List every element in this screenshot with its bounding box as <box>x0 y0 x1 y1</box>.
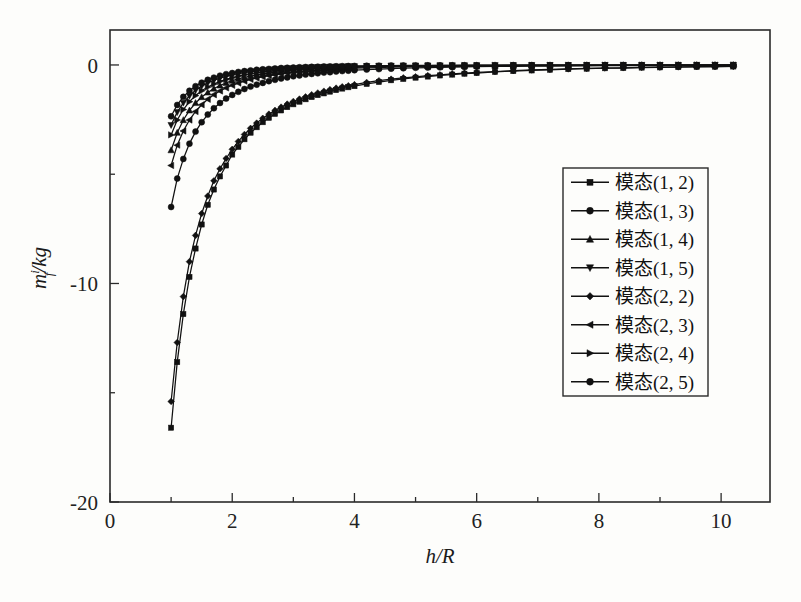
x-tick-label: 2 <box>227 509 238 533</box>
series-marker <box>223 71 229 77</box>
series-marker <box>217 73 223 79</box>
series-marker <box>260 80 266 86</box>
legend-label: 模态(2, 5) <box>615 372 694 394</box>
series-marker <box>235 89 241 95</box>
chart-legend: 模态(1, 2)模态(1, 3)模态(1, 4)模态(1, 5)模态(2, 2)… <box>563 168 708 396</box>
series-marker <box>315 64 321 70</box>
series-marker <box>694 62 700 68</box>
x-tick-label: 10 <box>711 509 732 533</box>
x-tick-label: 6 <box>471 509 482 533</box>
series-marker <box>266 78 272 84</box>
series-marker <box>388 63 394 69</box>
series-marker <box>186 88 192 94</box>
series-marker <box>278 65 284 71</box>
series-marker <box>248 67 254 73</box>
legend-marker-square-icon <box>587 179 593 185</box>
x-tick-label: 0 <box>105 509 116 533</box>
series-marker <box>199 119 205 125</box>
series-marker <box>345 63 351 69</box>
series-marker <box>492 62 498 68</box>
series-marker <box>248 84 254 90</box>
series-marker <box>260 66 266 72</box>
series-marker <box>327 63 333 69</box>
series-marker <box>186 141 192 147</box>
series-marker <box>217 174 222 179</box>
series-marker <box>211 187 216 192</box>
legend-label: 模态(2, 2) <box>615 286 694 308</box>
legend-marker-circle-icon <box>587 378 594 385</box>
series-marker <box>461 62 467 68</box>
series-marker <box>529 62 535 68</box>
series-marker <box>413 62 419 68</box>
series-marker <box>193 246 198 251</box>
series-marker <box>657 62 663 68</box>
series-marker <box>284 65 290 71</box>
series-marker <box>376 63 382 69</box>
series-marker <box>712 62 718 68</box>
series-marker <box>266 66 272 72</box>
chart-figure: 0246810 0-10-20 模态(1, 2)模态(1, 3)模态(1, 4)… <box>0 0 801 602</box>
series-marker <box>174 176 180 182</box>
series-marker <box>620 62 626 68</box>
series-marker <box>321 64 327 70</box>
series-marker <box>296 64 302 70</box>
legend-marker-circle-icon <box>587 207 594 214</box>
series-marker <box>211 75 217 81</box>
series-marker <box>730 62 736 68</box>
series-marker <box>437 62 443 68</box>
x-tick-label: 4 <box>349 509 360 533</box>
series-marker <box>272 65 278 71</box>
series-marker <box>303 64 309 70</box>
series-marker <box>584 62 590 68</box>
series-marker <box>223 96 229 102</box>
series-marker <box>339 63 345 69</box>
series-marker <box>602 62 608 68</box>
series-marker <box>241 68 247 74</box>
series-marker <box>309 64 315 70</box>
chart-canvas: 0246810 0-10-20 模态(1, 2)模态(1, 3)模态(1, 4)… <box>0 0 801 602</box>
series-marker <box>229 70 235 76</box>
series-marker <box>547 62 553 68</box>
series-marker <box>180 94 186 100</box>
series-marker <box>229 92 235 98</box>
series-marker <box>205 77 211 83</box>
legend-label: 模态(1, 3) <box>615 201 694 223</box>
series-marker <box>174 102 180 108</box>
series-marker <box>199 222 204 227</box>
series-marker <box>224 163 229 168</box>
y-tick-label: -20 <box>70 491 98 515</box>
series-marker <box>449 62 455 68</box>
x-tick-label: 8 <box>594 509 605 533</box>
series-marker <box>235 69 241 75</box>
legend-label: 模态(1, 4) <box>615 229 694 251</box>
series-marker <box>351 63 357 69</box>
series-marker <box>168 113 174 119</box>
series-marker <box>254 82 260 88</box>
series-marker <box>290 65 296 71</box>
series-marker <box>425 62 431 68</box>
series-marker <box>193 83 199 89</box>
series-marker <box>254 67 260 73</box>
series-marker <box>217 100 223 106</box>
legend-label: 模态(1, 2) <box>615 172 694 194</box>
series-marker <box>639 62 645 68</box>
series-marker <box>205 112 211 118</box>
series-marker <box>241 86 247 92</box>
x-axis-label: h/R <box>425 544 454 568</box>
series-marker <box>675 62 681 68</box>
legend-label: 模态(2, 3) <box>615 315 694 337</box>
y-tick-label: 0 <box>88 54 99 78</box>
y-tick-label: -10 <box>70 272 98 296</box>
legend-label: 模态(2, 4) <box>615 343 694 365</box>
series-marker <box>400 62 406 68</box>
series-marker <box>565 62 571 68</box>
legend-label: 模态(1, 5) <box>615 258 694 280</box>
series-marker <box>333 63 339 69</box>
series-marker <box>199 80 205 86</box>
series-marker <box>169 425 174 430</box>
series-marker <box>510 62 516 68</box>
series-marker <box>364 63 370 69</box>
series-marker <box>180 156 186 162</box>
series-marker <box>211 105 217 111</box>
series-marker <box>168 204 174 210</box>
